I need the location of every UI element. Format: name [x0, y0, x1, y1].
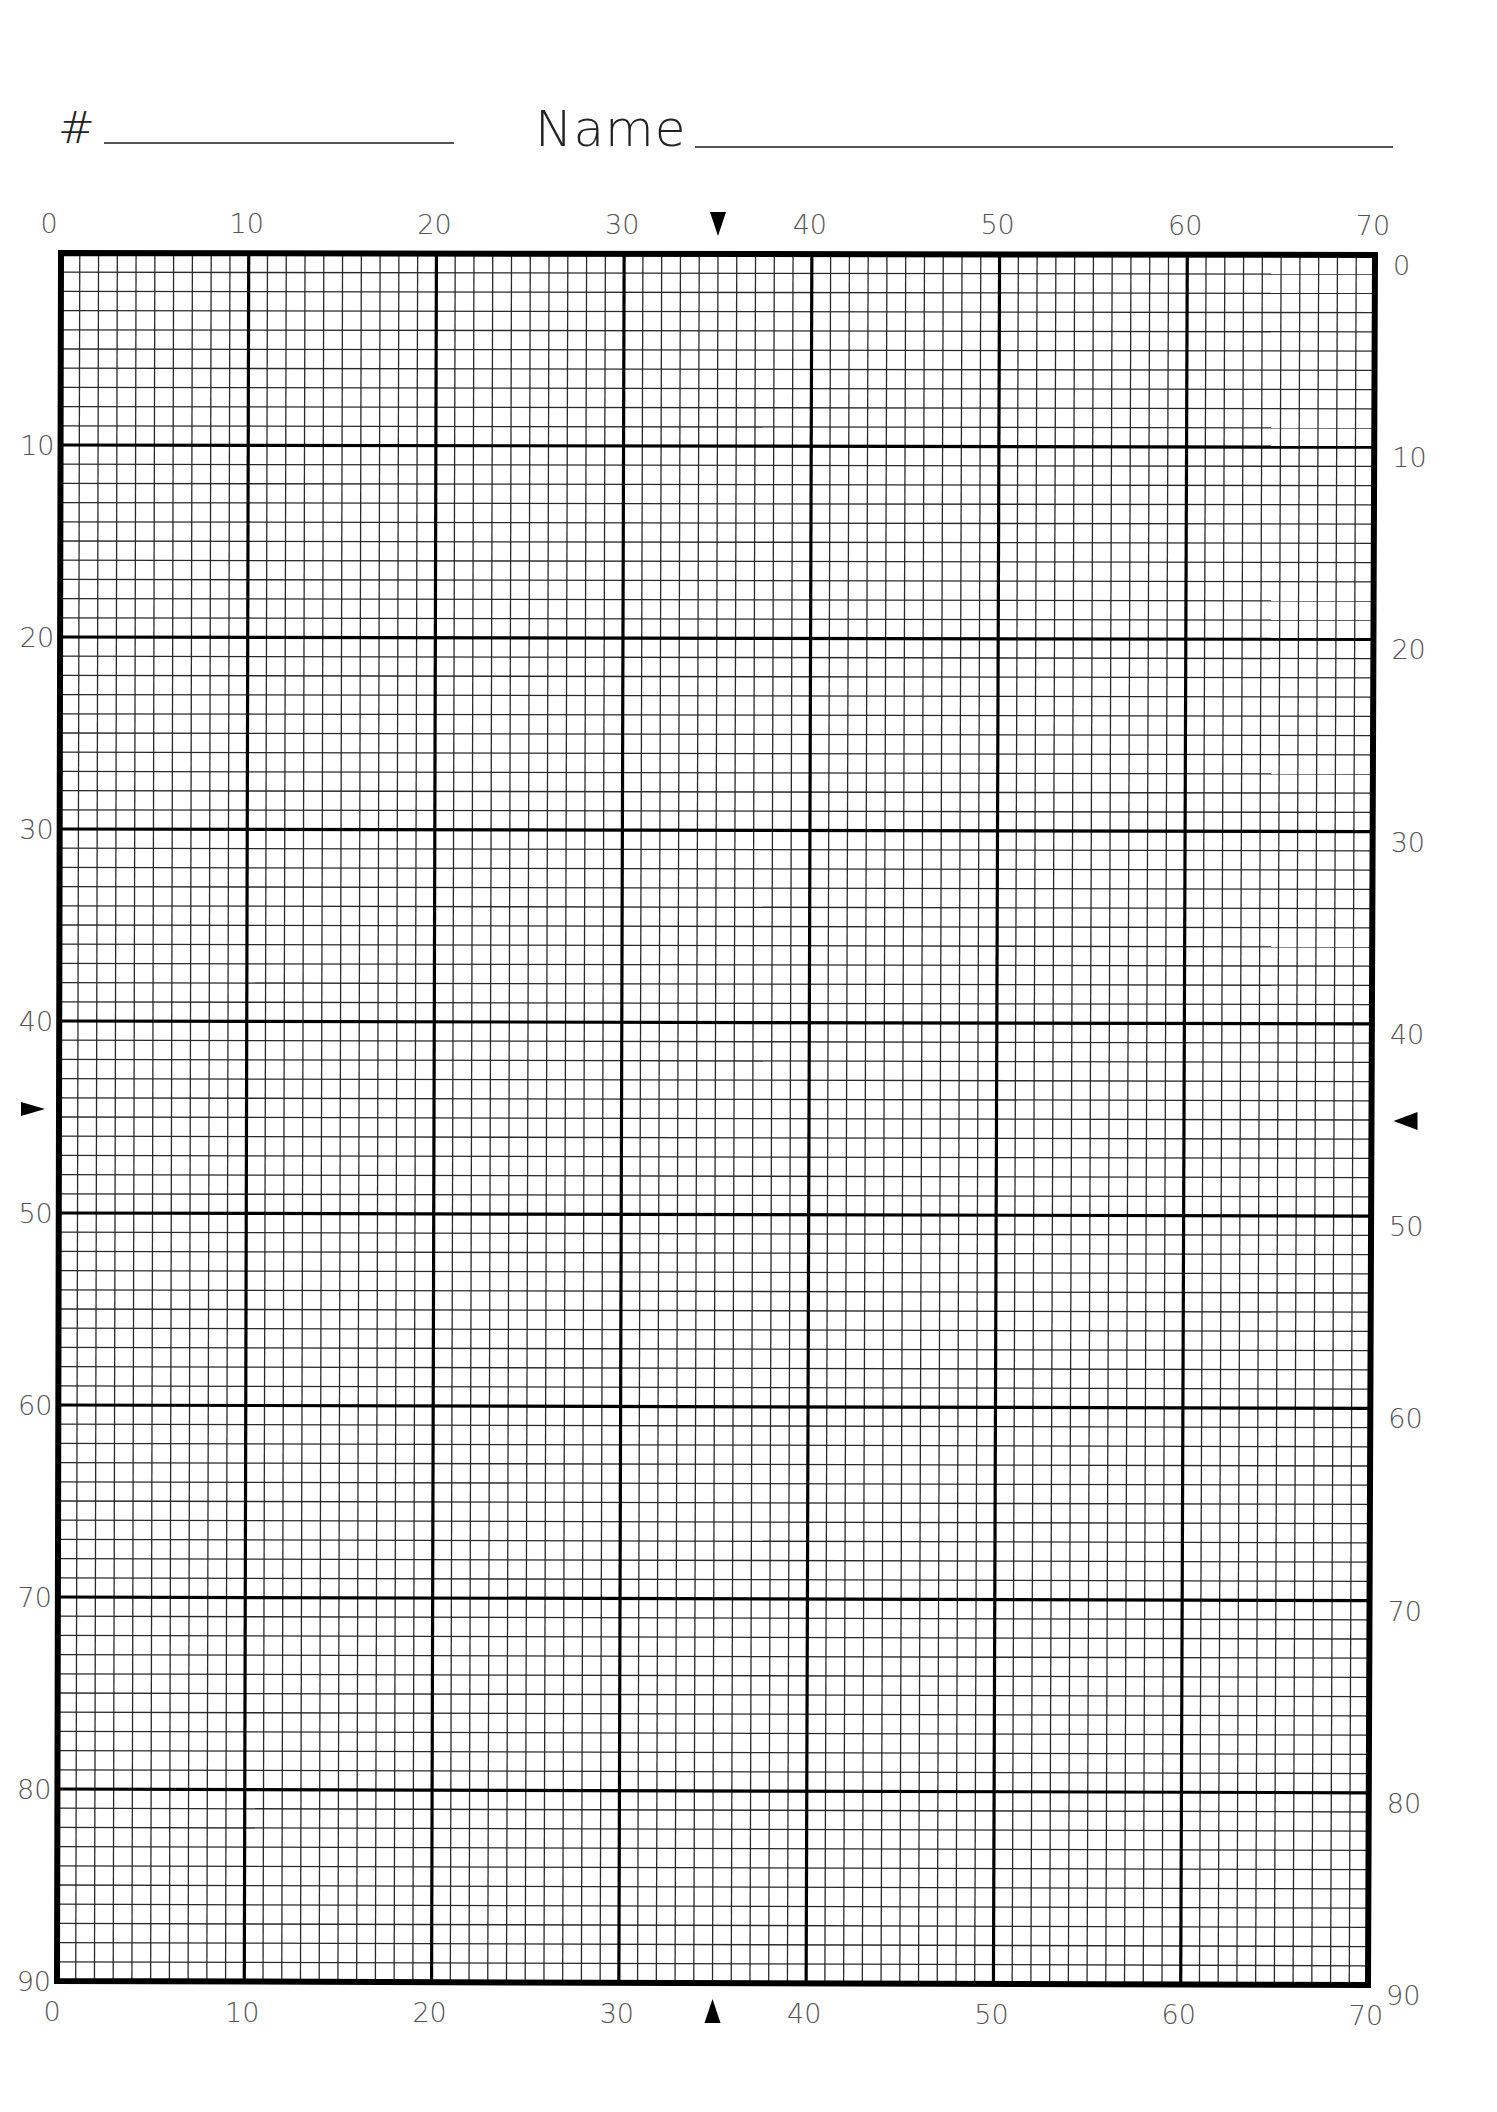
left-axis-label: 60 [18, 1390, 52, 1421]
major-gridline-horizontal [61, 445, 1375, 447]
bottom-center-marker-icon [705, 1999, 721, 2023]
right-axis-label: 20 [1391, 634, 1425, 665]
top-axis-label: 50 [980, 209, 1014, 240]
right-axis-label: 90 [1386, 1980, 1420, 2011]
right-axis-label: 50 [1389, 1211, 1423, 1242]
bottom-axis-label: 70 [1349, 2000, 1383, 2031]
top-axis-label: 30 [605, 209, 639, 240]
left-axis-label: 10 [20, 430, 54, 461]
right-axis-label: 40 [1390, 1019, 1424, 1050]
bottom-axis-label: 0 [43, 1996, 60, 2027]
right-axis-label: 0 [1393, 250, 1410, 281]
left-axis-label: 40 [19, 1006, 53, 1037]
major-gridline-horizontal [58, 1597, 1370, 1601]
bottom-axis-label: 10 [225, 1997, 259, 2028]
left-axis-label: 30 [19, 814, 53, 845]
top-axis-label: 60 [1168, 210, 1202, 241]
major-gridline-horizontal [58, 1405, 1370, 1408]
right-axis-label: 70 [1388, 1596, 1422, 1627]
major-gridline-horizontal [59, 1213, 1371, 1216]
major-gridline-vertical [244, 253, 248, 1981]
left-axis-label: 50 [18, 1198, 52, 1229]
left-axis-label: 80 [17, 1774, 51, 1805]
top-center-marker-icon [710, 212, 726, 236]
right-axis-label: 10 [1392, 442, 1426, 473]
top-axis-label: 10 [230, 208, 264, 239]
right-axis-label: 30 [1391, 827, 1425, 858]
left-axis-label: 90 [17, 1966, 51, 1997]
major-gridline-horizontal [60, 637, 1373, 639]
right-center-marker-icon [1394, 1112, 1418, 1130]
left-center-marker-icon [21, 1102, 45, 1116]
left-axis-label: 70 [18, 1582, 52, 1613]
bottom-axis-label: 20 [412, 1997, 446, 2028]
minor-grid-lines [57, 253, 1375, 1985]
major-gridline-horizontal [60, 829, 1373, 832]
left-axis-label: 20 [20, 622, 54, 653]
right-axis-label: 80 [1387, 1788, 1421, 1819]
bottom-axis-label: 50 [974, 1999, 1008, 2030]
bottom-axis-label: 30 [600, 1998, 634, 2029]
major-gridline-horizontal [57, 1789, 1368, 1793]
major-gridline-horizontal [59, 1021, 1372, 1024]
bottom-axis-label: 40 [787, 1998, 821, 2029]
top-axis-label: 0 [40, 208, 57, 239]
top-axis-label: 40 [793, 209, 827, 240]
graph-grid: 0102030405060700102030405060701020304050… [0, 0, 1497, 2112]
top-axis-label: 70 [1356, 210, 1390, 241]
bottom-axis-label: 60 [1162, 1999, 1196, 2030]
right-axis-label: 60 [1388, 1403, 1422, 1434]
top-axis-label: 20 [417, 209, 451, 240]
